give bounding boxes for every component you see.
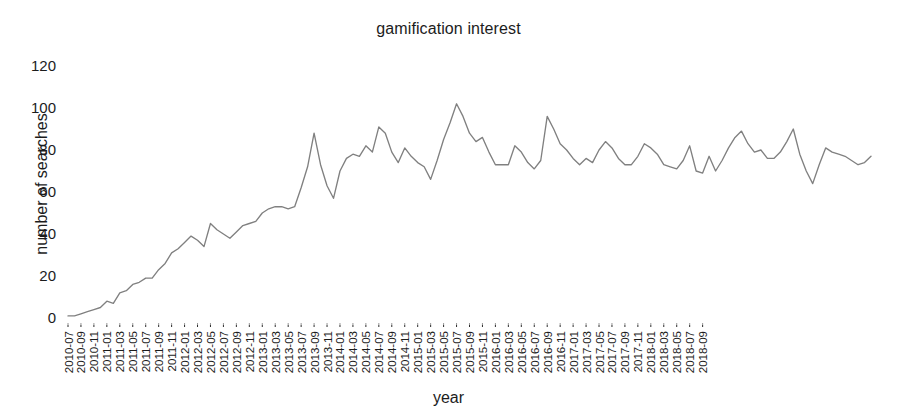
x-tick-label: 2016-11 bbox=[555, 331, 567, 372]
chart-container: gamification interest number of searches… bbox=[0, 0, 897, 415]
x-tick-label: 2012-05 bbox=[205, 331, 217, 373]
x-tick-label: 2015-09 bbox=[464, 331, 476, 373]
x-tick-label: 2011-07 bbox=[140, 331, 152, 372]
data-series-line bbox=[68, 104, 871, 316]
y-tick-label: 80 bbox=[39, 141, 56, 158]
x-tick-label: 2014-05 bbox=[360, 331, 372, 373]
x-tick-label: 2011-09 bbox=[153, 331, 165, 372]
x-tick-label: 2017-07 bbox=[606, 331, 618, 373]
x-tick-label: 2016-09 bbox=[542, 331, 554, 373]
x-tick-label: 2018-01 bbox=[645, 331, 657, 373]
x-tick-label: 2015-11 bbox=[477, 331, 489, 372]
y-tick-label: 40 bbox=[39, 225, 56, 242]
x-tick-label: 2017-03 bbox=[581, 331, 593, 373]
y-tick-label: 0 bbox=[48, 309, 56, 326]
x-tick-label: 2012-03 bbox=[192, 331, 204, 373]
x-tick-label: 2013-09 bbox=[309, 331, 321, 373]
y-tick-label: 120 bbox=[31, 57, 56, 74]
x-tick-label: 2013-01 bbox=[257, 331, 269, 373]
x-tick-label: 2010-11 bbox=[88, 331, 100, 372]
x-tick-label: 2015-05 bbox=[438, 331, 450, 373]
y-tick-label: 20 bbox=[39, 267, 56, 284]
x-tick-label: 2018-09 bbox=[697, 331, 709, 373]
x-tick-label: 2012-09 bbox=[231, 331, 243, 373]
x-tick-label: 2013-03 bbox=[270, 331, 282, 373]
x-tick-label: 2011-11 bbox=[166, 331, 178, 372]
x-tick-label: 2015-03 bbox=[425, 331, 437, 373]
x-tick-label: 2014-09 bbox=[386, 331, 398, 373]
x-tick-label: 2014-07 bbox=[373, 331, 385, 373]
x-tick-label: 2018-03 bbox=[658, 331, 670, 373]
x-tick-label: 2017-05 bbox=[594, 331, 606, 373]
x-tick-label: 2011-05 bbox=[127, 331, 139, 372]
x-tick-label: 2012-11 bbox=[244, 331, 256, 372]
x-tick-label: 2010-09 bbox=[75, 331, 87, 373]
x-tick-label: 2012-01 bbox=[179, 331, 191, 373]
x-tick-label: 2010-07 bbox=[63, 331, 75, 373]
plot-area: 020406080100120 2010-072010-092010-11201… bbox=[0, 0, 897, 415]
x-tick-label: 2011-03 bbox=[114, 331, 126, 372]
y-tick-label: 100 bbox=[31, 99, 56, 116]
x-tick-label: 2016-01 bbox=[490, 331, 502, 373]
x-tick-label: 2014-03 bbox=[347, 331, 359, 373]
x-tick-label: 2012-07 bbox=[218, 331, 230, 373]
x-tick-label: 2015-07 bbox=[451, 331, 463, 373]
x-tick-label: 2014-11 bbox=[399, 331, 411, 372]
x-axis-label: year bbox=[0, 389, 897, 407]
x-tick-label: 2014-01 bbox=[334, 331, 346, 373]
x-tick-label: 2015-01 bbox=[412, 331, 424, 373]
x-tick-label: 2018-07 bbox=[684, 331, 696, 373]
x-tick-label: 2013-07 bbox=[296, 331, 308, 373]
x-tick-label: 2013-05 bbox=[283, 331, 295, 373]
x-tick-label: 2016-07 bbox=[529, 331, 541, 373]
x-tick-label: 2018-05 bbox=[671, 331, 683, 373]
x-tick-label: 2017-11 bbox=[632, 331, 644, 372]
x-tick-label: 2017-01 bbox=[568, 331, 580, 373]
x-tick-label: 2016-03 bbox=[503, 331, 515, 373]
x-axis-ticks: 2010-072010-092010-112011-012011-032011-… bbox=[63, 323, 710, 373]
y-tick-label: 60 bbox=[39, 183, 56, 200]
x-tick-label: 2017-09 bbox=[619, 331, 631, 373]
y-axis-ticks: 020406080100120 bbox=[31, 57, 56, 326]
x-tick-label: 2011-01 bbox=[101, 331, 113, 372]
x-tick-label: 2013-11 bbox=[322, 331, 334, 372]
x-tick-label: 2016-05 bbox=[516, 331, 528, 373]
